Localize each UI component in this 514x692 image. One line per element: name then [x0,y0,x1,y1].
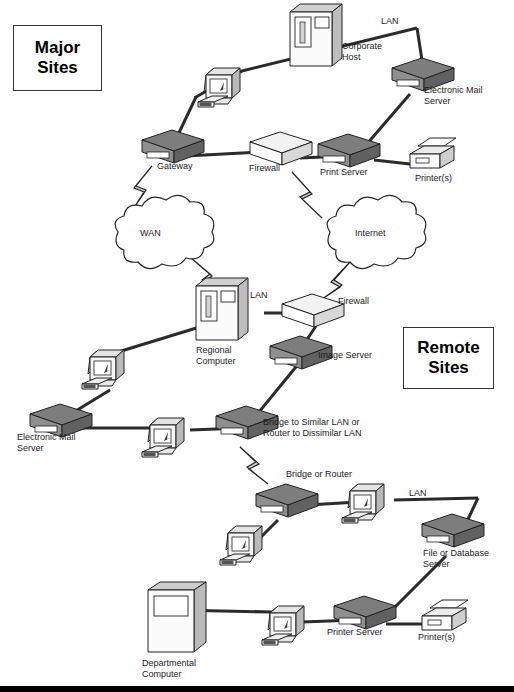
node-workstation-remote-2 [142,418,184,457]
node-printer-major [410,138,456,168]
node-firewall-remote [282,294,344,327]
node-gateway [142,130,204,163]
label-lan-bottom: LAN [409,488,427,499]
label-lan-middle: LAN [250,290,268,301]
label-internet-cloud: Internet [355,228,386,239]
node-workstation-major-1 [198,68,240,107]
label-corporate-host: Corporate Host [342,41,382,63]
label-printer-server-bottom: Printer Server [327,627,383,638]
label-departmental-computer: Departmental Computer [142,658,196,680]
network-diagram-canvas: Major Sites Remote Sites LANCorporate Ho… [0,0,514,692]
zone-remote-line2: Sites [428,358,469,378]
zone-major-line1: Major [35,38,80,58]
cloud-wan [115,195,214,268]
label-electronic-mail-server-top: Electronic Mail Server [424,85,483,107]
connection-lines [74,28,478,624]
label-wan-cloud: WAN [140,228,161,239]
label-bridge-or-router: Bridge or Router [286,469,352,480]
label-printers-bottom: Printer(s) [418,632,455,643]
label-image-server: Image Server [318,350,372,361]
node-bridge-or-router [256,484,318,517]
label-print-server: Print Server [320,167,368,178]
label-lan-top: LAN [381,16,399,27]
label-bridge-router-note: Bridge to Similar LAN or Router to Dissi… [263,417,362,439]
node-workstation-remote-3 [342,484,384,523]
zone-remote-line1: Remote [417,338,479,358]
zone-major-line2: Sites [37,58,78,78]
node-corporate-host [290,4,342,66]
label-gateway: Gateway [157,161,193,172]
node-printer-remote [422,600,468,630]
node-regional-computer [196,278,248,340]
node-workstation-remote-4 [220,526,262,565]
label-file-database-server: File or Database Server [423,548,489,570]
label-printers-top: Printer(s) [415,173,452,184]
node-workstation-remote-1 [82,350,124,389]
node-firewall-major [250,132,312,165]
bottom-rule [0,686,514,692]
label-electronic-mail-server-bottom: Electronic Mail Server [17,432,76,454]
label-firewall-top: Firewall [249,163,280,174]
node-file-database-server [422,514,484,547]
zone-box-remote-sites: Remote Sites [403,327,494,389]
label-regional-computer: Regional Computer [196,345,236,367]
label-firewall-middle: Firewall [338,296,369,307]
zone-box-major-sites: Major Sites [13,25,102,91]
node-departmental-computer [148,582,206,652]
